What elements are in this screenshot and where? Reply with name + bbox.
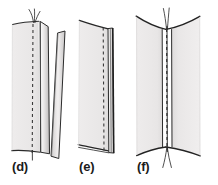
panel-d-fold-crease	[40, 22, 41, 152]
panel-d: (d)	[12, 9, 65, 174]
panel-label-e: (e)	[79, 159, 94, 174]
panel-d-main-fabric	[12, 22, 40, 153]
panel-f-left-fabric	[137, 17, 163, 156]
panel-label-d: (d)	[12, 159, 28, 174]
panel-e-outer-fold-edge	[113, 28, 114, 153]
seam-diagram-svg: (d) (e)	[0, 0, 218, 185]
figure-container: (d) (e)	[0, 0, 218, 185]
panel-d-folded-seam-allowance	[40, 21, 49, 153]
panel-label-f: (f)	[137, 159, 149, 174]
panel-f-right-fabric	[172, 17, 201, 156]
